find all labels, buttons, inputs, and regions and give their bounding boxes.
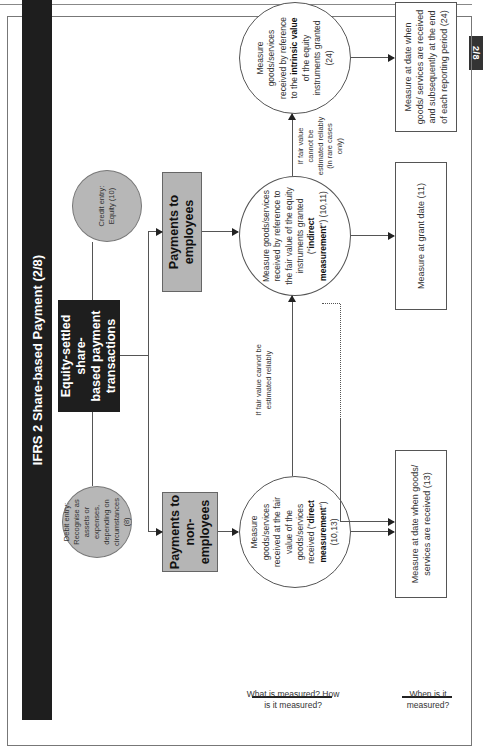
arrow-down-icon: [156, 528, 163, 536]
condition-indirect-fallback: If fair value cannot be estimated reliab…: [296, 116, 345, 176]
connector-direct-to-indirect: [292, 296, 293, 476]
diagram-title: IFRS 2 Share-based Payment (2/8): [22, 0, 52, 720]
arrow-down-icon: [388, 528, 395, 536]
arrow-right-icon: [288, 113, 296, 120]
when-intrinsic-box: Measure at date when goods/ services are…: [395, 2, 457, 132]
dotted-connector-horizontal: [340, 304, 341, 420]
root-line-2: based payment: [89, 311, 104, 402]
branch-payments-employees: Payments to employees: [162, 172, 202, 292]
arrow-down-icon: [388, 518, 395, 526]
arrow-down-icon: [232, 528, 239, 536]
arrow-right-icon: [288, 295, 296, 302]
condition-direct-fallback: If fair value cannot be estimated reliab…: [254, 340, 274, 420]
branch-non-employees-line-1: Payments to: [168, 495, 183, 569]
root-line-1: Equity-settled share-: [59, 304, 89, 408]
page-number: 2/8: [471, 46, 481, 60]
arrow-down-icon: [232, 228, 239, 236]
connector-indirect-to-intrinsic: [292, 114, 293, 176]
arrow-down-icon: [388, 54, 395, 62]
intrinsic-text-bold: intrinsic value: [289, 18, 299, 75]
diagram-canvas: IFRS 2 Share-based Payment (2/8) Debit e…: [22, 0, 462, 720]
frame-bottom-rule: [7, 745, 472, 746]
direct-measurement-node: Measure goods/services received at the f…: [239, 476, 351, 588]
connector-split-left: [148, 356, 149, 532]
branch-non-employees-line-2: non-employees: [183, 493, 213, 571]
when-direct-box: Measure at date when goods/ services are…: [395, 450, 447, 598]
connector-split-right: [148, 232, 149, 356]
arrow-down-icon: [388, 232, 395, 240]
dotted-connector-vertical: [322, 303, 340, 304]
connector-debit: [92, 412, 93, 486]
debit-entry-node: Debit entry: Recognise as assets or expe…: [62, 486, 132, 558]
indirect-text-post: ") (10,11): [318, 191, 328, 226]
connector-root-down: [120, 355, 148, 356]
when-grant-date-box: Measure at grant date (11): [395, 162, 447, 310]
connector-credit: [92, 242, 93, 300]
root-line-3: transactions: [104, 319, 119, 393]
intrinsic-text-post: of the equity instruments granted (24): [301, 20, 334, 95]
connector-down-direct-when: [340, 521, 394, 522]
row-label-when: When is it measured?: [398, 689, 458, 711]
indirect-measurement-node: Measure goods/services received by refer…: [239, 176, 351, 296]
row-label-what-how: What is measured? How is it measured?: [243, 689, 343, 711]
branch-payments-non-employees: Payments to non-employees: [162, 492, 218, 572]
connector-to-direct-when: [340, 420, 341, 522]
root-node-equity-settled: Equity-settled share- based payment tran…: [58, 300, 120, 412]
intrinsic-value-node: Measure goods/services received by refer…: [239, 2, 351, 114]
arrow-down-icon: [156, 228, 163, 236]
credit-entry-node: Credit entry: Equity (10): [72, 170, 142, 242]
